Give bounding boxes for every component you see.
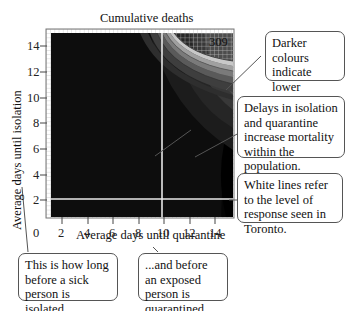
- y-tick-14: 14: [27, 39, 40, 54]
- y-axis-label: Average days until isolation: [10, 90, 25, 230]
- x-tick-10: 10: [157, 226, 170, 241]
- max-value-label: 309: [209, 35, 228, 50]
- y-tick-8: 8: [33, 116, 39, 131]
- x-tick-14: 14: [209, 226, 222, 241]
- callout-quarantine: ...and before an exposed person is quara…: [138, 253, 228, 301]
- x-tick-4: 4: [84, 226, 90, 241]
- x-axis-label: Average days until quarantine: [76, 228, 225, 243]
- y-tick-6: 6: [33, 142, 39, 157]
- y-tick-12: 12: [27, 65, 40, 80]
- x-tick-8: 8: [135, 226, 141, 241]
- chart-title: Cumulative deaths: [100, 11, 193, 26]
- x-tick-12: 12: [183, 226, 196, 241]
- x-tick-6: 6: [109, 226, 115, 241]
- x-tick-2: 2: [58, 226, 64, 241]
- callout-darker-colours: Darker colours indicate lower mortality …: [265, 31, 345, 81]
- callout-isolation: This is how long before a sick person is…: [18, 253, 118, 301]
- y-tick-10: 10: [27, 91, 40, 106]
- callout-delays: Delays in isolation and quarantine incre…: [237, 96, 345, 158]
- x-tick-0: 0: [33, 226, 39, 241]
- y-tick-4: 4: [33, 168, 39, 183]
- callout-white-lines: White lines refer to the level of respon…: [237, 173, 343, 223]
- y-tick-2: 2: [33, 193, 39, 208]
